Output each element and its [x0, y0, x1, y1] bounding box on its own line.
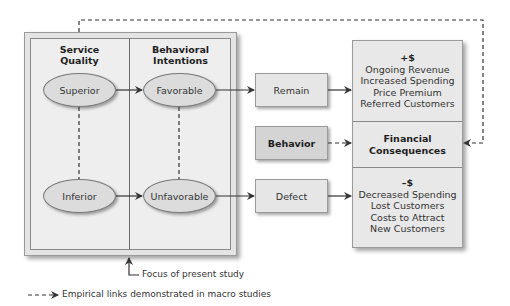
heading-line: Intentions — [130, 55, 231, 66]
remain-box: Remain — [255, 73, 328, 107]
heading-line: Behavioral — [130, 44, 231, 55]
legend-label: Empirical links demonstrated in macro st… — [62, 289, 271, 299]
positive-item: Price Premium — [373, 87, 441, 99]
behavior-box: Behavior — [255, 126, 328, 160]
node-inferior: Inferior — [43, 179, 116, 213]
node-favorable: Favorable — [143, 73, 216, 107]
box-label: Behavior — [268, 138, 316, 149]
focus-label: Focus of present study — [142, 269, 244, 279]
heading-line: Service — [30, 44, 129, 55]
service-quality-heading: Service Quality — [30, 44, 129, 66]
behavioral-intentions-heading: Behavioral Intentions — [130, 44, 231, 66]
study-inner-frame — [30, 38, 231, 250]
node-label: Superior — [59, 85, 99, 96]
node-label: Inferior — [62, 191, 96, 202]
middle-line: Consequences — [369, 145, 446, 157]
node-superior: Superior — [43, 73, 116, 107]
negative-item: Costs to Attract — [370, 212, 444, 224]
positive-item: Referred Customers — [360, 98, 455, 110]
focus-arrow-icon — [129, 258, 139, 275]
positive-item: Ongoing Revenue — [365, 64, 449, 76]
negative-item: New Customers — [370, 223, 445, 235]
positive-item: Increased Spending — [361, 75, 455, 87]
negative-item: Decreased Spending — [358, 189, 456, 201]
node-label: Unfavorable — [151, 191, 209, 202]
heading-line: Quality — [30, 55, 129, 66]
middle-line: Financial — [383, 133, 431, 145]
negative-financial-section: –$ Decreased Spending Lost Customers Cos… — [353, 168, 462, 244]
financial-consequences-label: Financial Consequences — [353, 122, 462, 167]
positive-title: +$ — [400, 52, 415, 64]
negative-title: –$ — [402, 177, 413, 189]
column-divider — [129, 38, 130, 250]
negative-item: Lost Customers — [371, 200, 445, 212]
box-label: Defect — [276, 191, 307, 202]
financial-consequences-box: +$ Ongoing Revenue Increased Spending Pr… — [352, 40, 463, 248]
node-unfavorable: Unfavorable — [143, 179, 216, 213]
defect-box: Defect — [255, 179, 328, 213]
box-label: Remain — [274, 85, 310, 96]
node-label: Favorable — [156, 85, 202, 96]
positive-financial-section: +$ Ongoing Revenue Increased Spending Pr… — [353, 41, 462, 121]
